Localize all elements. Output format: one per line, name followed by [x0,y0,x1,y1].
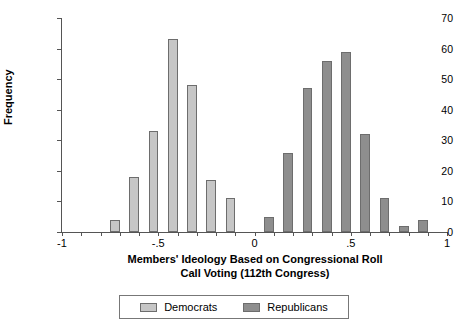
x-tick-mark [351,232,352,236]
x-tick-mark [312,232,313,236]
histogram-bar-rep [399,226,409,232]
histogram-bar-rep [418,220,428,232]
y-tick-mark [57,140,61,141]
legend-item-rep[interactable]: Republicans [243,302,328,313]
legend-label: Republicans [267,302,328,313]
histogram-bar-rep [322,61,332,232]
x-tick-mark [255,232,256,236]
histogram-bar-rep [264,217,274,232]
legend-swatch-icon [140,303,157,312]
x-tick-mark [81,232,82,236]
histogram-chart: Frequency Members' Ideology Based on Con… [0,0,461,330]
plot-area [62,18,447,232]
y-tick-mark [57,49,61,50]
legend-swatch-icon [243,303,260,312]
histogram-bar-rep [303,88,313,232]
histogram-bar-rep [341,52,351,232]
histogram-bar-rep [380,198,390,232]
y-tick-mark [57,201,61,202]
x-tick-mark [197,232,198,236]
y-tick-label: 10 [441,196,453,206]
y-tick-label: 50 [441,74,453,84]
y-tick-mark [57,232,61,233]
x-tick-mark [293,232,294,236]
x-tick-label: 1 [444,238,450,249]
y-tick-label: 60 [441,44,453,54]
x-axis-title-line: Members' Ideology Based on Congressional… [62,252,448,266]
legend-item-dem[interactable]: Democrats [140,302,217,313]
x-tick-label: .5 [346,238,355,249]
x-tick-label: -.5 [152,238,165,249]
y-tick-label: 0 [447,227,453,237]
y-tick-label: 20 [441,166,453,176]
y-tick-mark [57,79,61,80]
y-axis-title: Frequency [2,69,14,125]
x-tick-mark [158,232,159,236]
x-axis-title-line: Call Voting (112th Congress) [62,266,448,280]
histogram-bar-dem [129,177,139,232]
x-tick-mark [139,232,140,236]
y-tick-label: 70 [441,13,453,23]
histogram-bar-dem [149,131,159,232]
x-tick-mark [274,232,275,236]
x-tick-mark [120,232,121,236]
y-tick-mark [57,18,61,19]
legend-label: Democrats [164,302,217,313]
y-tick-label: 30 [441,135,453,145]
y-tick-label: 40 [441,105,453,115]
chart-legend: DemocratsRepublicans [119,295,349,319]
x-tick-mark [332,232,333,236]
x-tick-mark [409,232,410,236]
x-axis-title: Members' Ideology Based on Congressional… [62,252,448,280]
histogram-bar-dem [187,85,197,232]
histogram-bar-dem [110,220,120,232]
histogram-bar-dem [206,180,216,232]
histogram-bar-dem [226,198,236,232]
x-axis-line [62,232,448,233]
x-tick-mark [235,232,236,236]
x-tick-mark [389,232,390,236]
x-tick-label: 0 [251,238,257,249]
x-tick-mark [62,232,63,236]
x-tick-label: -1 [57,238,67,249]
x-tick-mark [101,232,102,236]
histogram-bar-rep [360,134,370,232]
x-tick-mark [216,232,217,236]
x-tick-mark [178,232,179,236]
histogram-bar-dem [168,39,178,232]
y-tick-mark [57,171,61,172]
y-tick-mark [57,110,61,111]
histogram-bar-rep [283,153,293,232]
x-tick-mark [370,232,371,236]
x-tick-mark [428,232,429,236]
